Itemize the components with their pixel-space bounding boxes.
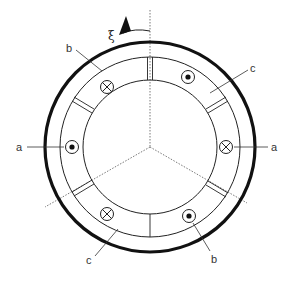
conductor-b-top-left-cross-icon [101,81,114,94]
conductor-a-right-cross-icon [220,141,233,154]
rotation-arrow: ξ [108,16,150,43]
label-b-bottom: b [211,253,217,265]
label-b-top: b [66,42,72,54]
label-a-right: a [271,141,278,153]
conductor-c-top-right-dot-icon [182,71,195,84]
label-c-top: c [250,62,256,74]
label-c-bottom: c [86,254,92,266]
conductor-a-left-dot-icon [66,141,79,154]
conductor-b-bottom-right-dot-icon [183,210,196,223]
lower-right-axis [150,147,247,203]
stator-winding-diagram: ξ b c a a [0,0,294,282]
label-a-left: a [16,141,23,153]
arrowhead-icon [119,16,131,35]
conductor-c-bottom-left-cross-icon [101,208,114,221]
phase-axes [45,10,247,207]
rotation-label: ξ [108,29,115,43]
